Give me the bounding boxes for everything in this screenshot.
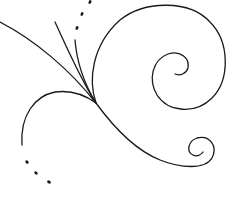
dot-icon [47,180,52,184]
flourish-artwork: Decorative swirl flourish line art [0,0,238,214]
bottom-left-dots [25,160,52,185]
dot-icon [80,12,84,17]
left-arc-stroke [22,92,96,145]
top-dots [75,0,92,30]
swirl-flourish-graphic [0,0,238,214]
main-diagonal-stroke [0,22,214,167]
dot-icon [75,26,79,31]
dot-icon [25,160,30,165]
dot-icon [88,0,92,4]
large-spiral-stroke [92,5,225,109]
dot-icon [34,171,39,176]
